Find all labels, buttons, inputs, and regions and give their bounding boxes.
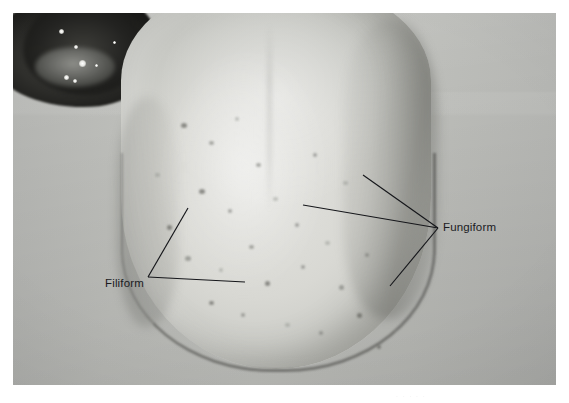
screenshot-root: Fungiform Filiform . . . . . xyxy=(0,0,569,403)
annotation-label-filiform: Filiform xyxy=(105,278,144,290)
plate-caption: . . . . . xyxy=(396,391,566,400)
photo-vignette xyxy=(13,13,556,385)
annotation-label-fungiform: Fungiform xyxy=(443,222,496,234)
clinical-photograph xyxy=(13,13,556,385)
